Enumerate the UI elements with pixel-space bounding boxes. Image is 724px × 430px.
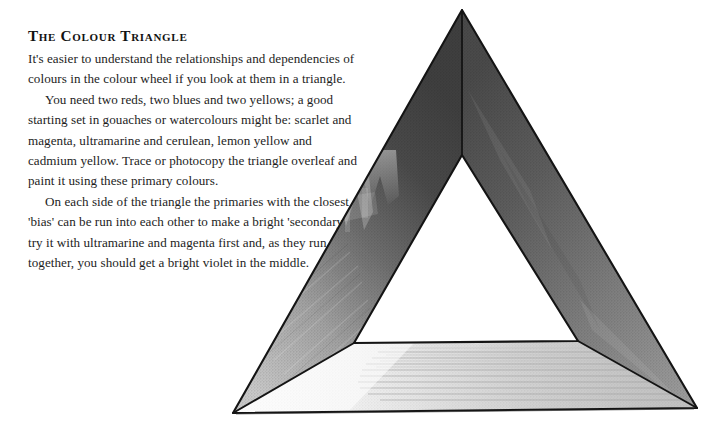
colour-triangle-svg — [200, 0, 724, 430]
colour-triangle-illustration — [200, 0, 724, 430]
